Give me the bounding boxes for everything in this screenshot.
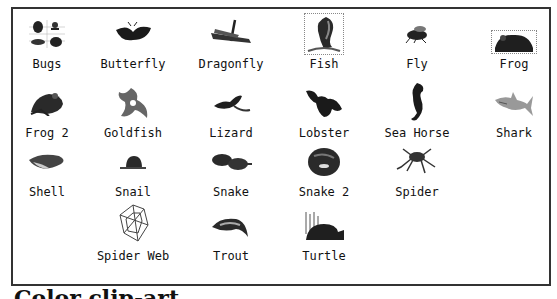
fly-icon [395, 17, 439, 51]
clipart-label: Shell [0, 185, 95, 199]
clipart-label: Dragonfly [183, 57, 279, 71]
snake-icon [209, 145, 253, 179]
clipart-label: Turtle [276, 249, 372, 263]
spider-web-icon [111, 203, 155, 243]
snail-icon [111, 145, 155, 179]
frog-icon [25, 86, 69, 120]
clipart-label: Fly [369, 57, 465, 71]
shell-icon [25, 145, 69, 179]
shark-icon [492, 86, 536, 120]
clipart-item-shark[interactable]: Shark [466, 86, 557, 152]
clipart-label: Bugs [0, 57, 95, 71]
clipart-item-snail[interactable]: Snail [85, 145, 181, 211]
spider-icon [395, 145, 439, 179]
lizard-icon [209, 86, 253, 120]
clipart-item-lobster[interactable]: Lobster [276, 86, 372, 152]
clipart-item-fly[interactable]: Fly [369, 17, 465, 83]
clipart-item-spider[interactable]: Spider [369, 145, 465, 211]
goldfish-icon [111, 86, 155, 120]
bugs-icon [25, 17, 69, 51]
clipart-item-spider-web[interactable]: Spider Web [85, 203, 181, 269]
clipart-label: Sea Horse [369, 126, 465, 140]
clipart-item-bugs[interactable]: Bugs [0, 17, 95, 83]
clipart-label: Frog [466, 57, 557, 71]
clipart-label: Lizard [183, 126, 279, 140]
clipart-label: Snail [85, 185, 181, 199]
clipart-label: Butterfly [85, 57, 181, 71]
clipart-item-shell[interactable]: Shell [0, 145, 95, 211]
clipart-item-fish[interactable]: Fish [276, 9, 372, 75]
turtle-icon [302, 209, 346, 243]
trout-icon [209, 209, 253, 243]
clipart-label: Lobster [276, 126, 372, 140]
clipart-label: Spider [369, 185, 465, 199]
snake-icon [302, 145, 346, 179]
dragonfly-icon [209, 17, 253, 51]
clipart-item-lizard[interactable]: Lizard [183, 86, 279, 152]
clipart-item-trout[interactable]: Trout [183, 209, 279, 275]
clipart-item-sea-horse[interactable]: Sea Horse [369, 83, 465, 149]
clipart-label: Snake 2 [276, 185, 372, 199]
clipart-item-dragonfly[interactable]: Dragonfly [183, 17, 279, 83]
clipart-label: Snake [183, 185, 279, 199]
clipart-label: Trout [183, 249, 279, 263]
caption: Color clip-art [14, 287, 179, 299]
clipart-label: Shark [466, 126, 557, 140]
clipart-label: Frog 2 [0, 126, 95, 140]
clipart-item-butterfly[interactable]: Butterfly [85, 17, 181, 83]
clipart-label: Fish [276, 57, 372, 71]
clipart-item-snake-2[interactable]: Snake 2 [276, 145, 372, 211]
sea-horse-icon [395, 83, 439, 123]
clipart-label: Spider Web [85, 249, 181, 263]
lobster-icon [302, 86, 346, 120]
clipart-item-frog[interactable]: Frog [466, 17, 557, 83]
clipart-library-panel: Bugs Butterfly Dragonfly [11, 7, 551, 286]
fish-icon [304, 13, 344, 55]
clipart-label: Goldfish [85, 126, 181, 140]
butterfly-icon [111, 17, 155, 51]
clipart-item-turtle[interactable]: Turtle [276, 209, 372, 275]
clipart-item-frog-2[interactable]: Frog 2 [0, 86, 95, 152]
clipart-item-snake[interactable]: Snake [183, 145, 279, 211]
frog-icon [491, 30, 537, 54]
clipart-item-goldfish[interactable]: Goldfish [85, 86, 181, 152]
